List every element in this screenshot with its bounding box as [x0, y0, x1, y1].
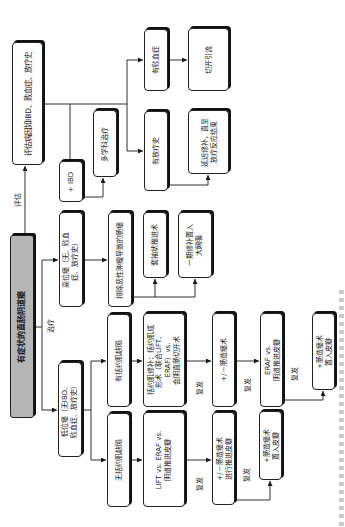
node-sphincter-repair: 括约肌修补：括约肌成 形术（联合LIFT、 ERAF）vs. 会阴直肠切开术 — [143, 313, 185, 407]
node-delayed-repair: 延迟修补，直至 放疗反应结束 — [188, 110, 229, 174]
node-radiation: 有放疗史 — [144, 111, 168, 191]
node-label: 套袖状推进术 — [143, 212, 167, 278]
node-sphincter-defect: 有括约肌缺陷 — [107, 314, 130, 407]
node-diversion-flap-lower: +肠造瘘术 置入皮瓣 — [259, 411, 282, 480]
node-label: 无括约肌缺陷 — [107, 413, 130, 507]
edge-label-recurrence: 复发 — [241, 468, 251, 482]
edge-label-recurrence: 复发 — [242, 378, 252, 392]
node-sepsis: 有败血症 — [144, 29, 168, 91]
node-label: +肠造瘘术 置入皮瓣 — [259, 411, 282, 480]
edge-label-recurrence: 复发 — [194, 477, 204, 491]
node-label: +/－肠造瘘术 进行推进皮瓣 — [212, 412, 235, 505]
node-diversion-advancement: +/－肠造瘘术 进行推进皮瓣 — [212, 412, 235, 505]
node-label: + IBD — [59, 161, 83, 202]
node-label: 有败血症 — [144, 29, 168, 91]
node-sleeve-advancement: 套袖状推进术 — [143, 212, 167, 278]
node-label: 切开引流 — [188, 28, 229, 91]
flowchart-figure: 评估病因如IBD、败血症、放疗史 有症状的直肠阴道瘘 + IBD 多学科治疗 有… — [0, 0, 345, 527]
node-drainage: 切开引流 — [188, 28, 229, 91]
node-label: 低位瘘（无IBD、 败血症、放疗史） — [58, 362, 82, 457]
node-multidisciplinary: 多学科治疗 — [93, 110, 117, 177]
edge-label-recurrence: 复发 — [194, 381, 204, 395]
node-high-fistula: 高位瘘（无、败血 症、放疗史） — [59, 212, 83, 307]
node-ibd: + IBD — [59, 161, 83, 202]
node-label: +肠造瘘术 置入皮瓣 — [312, 313, 335, 390]
caption-fragment — [339, 290, 344, 527]
edge-label-recurrence: 复发 — [289, 367, 299, 381]
node-label: 有括约肌缺陷 — [107, 314, 130, 407]
edge-label-treat: 治疗 — [45, 319, 55, 333]
node-evaluate-etiology: 评估病因如IBD、败血症、放疗史 — [12, 42, 43, 165]
node-label: 延迟修补，直至 放疗反应结束 — [188, 110, 229, 174]
node-label: 一期修补置入 大网膜 — [178, 212, 212, 278]
node-label: 高位瘘（无、败血 症、放疗史） — [59, 212, 83, 307]
edge-label-evaluate: 评估 — [12, 193, 22, 207]
node-label: 多学科治疗 — [93, 110, 117, 177]
node-label: ERAF vs. 阴道推进皮瓣 — [260, 313, 283, 407]
node-label: +/－肠造瘘术 — [212, 313, 235, 407]
node-diversion-optional: +/－肠造瘘术 — [212, 313, 235, 407]
node-no-sphincter-defect: 无括约肌缺陷 — [107, 413, 130, 507]
node-diversion-flap-upper: +肠造瘘术 置入皮瓣 — [312, 313, 335, 390]
node-label: 排除恶性肿瘤导致的肠瘘 — [108, 212, 132, 307]
node-lift-eraf-flap: LIFT vs. ERAF vs. 阴道推进皮瓣 — [143, 412, 185, 507]
node-label: LIFT vs. ERAF vs. 阴道推进皮瓣 — [143, 412, 185, 507]
node-label: 有放疗史 — [144, 111, 168, 191]
node-exclude-malignancy: 排除恶性肿瘤导致的肠瘘 — [108, 212, 132, 307]
node-label: 评估病因如IBD、败血症、放疗史 — [12, 42, 43, 165]
node-label: 括约肌修补：括约肌成 形术（联合LIFT、 ERAF）vs. 会阴直肠切开术 — [143, 313, 185, 407]
node-low-fistula: 低位瘘（无IBD、 败血症、放疗史） — [58, 362, 82, 457]
node-eraf-or-flap: ERAF vs. 阴道推进皮瓣 — [260, 313, 283, 407]
node-label: 有症状的直肠阴道瘘 — [10, 235, 34, 418]
node-omentum-repair: 一期修补置入 大网膜 — [178, 212, 212, 278]
node-root-symptomatic-rvf: 有症状的直肠阴道瘘 — [10, 235, 34, 418]
